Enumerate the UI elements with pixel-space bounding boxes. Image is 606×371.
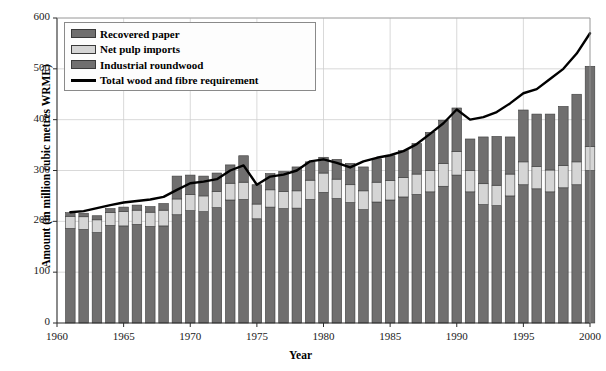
legend-swatch-industrial-roundwood [71, 60, 96, 69]
x-tick-label: 1960 [37, 330, 77, 342]
legend-item-recovered-paper: Recovered paper [71, 26, 309, 42]
x-tick-label: 1985 [370, 330, 410, 342]
x-tick-label: 1965 [104, 330, 144, 342]
x-tick-label: 1990 [437, 330, 477, 342]
legend-item-total-requirement: Total wood and fibre requirement [71, 73, 309, 89]
legend-swatch-net-pulp-imports [71, 45, 96, 54]
legend-item-industrial-roundwood: Industrial roundwood [71, 57, 309, 73]
legend-label-recovered-paper: Recovered paper [100, 28, 180, 40]
x-tick-label: 1975 [237, 330, 277, 342]
legend-label-net-pulp-imports: Net pulp imports [100, 43, 180, 55]
legend-swatch-recovered-paper [71, 29, 96, 38]
legend-item-net-pulp-imports: Net pulp imports [71, 42, 309, 58]
x-tick-label: 2000 [570, 330, 606, 342]
x-tick-label: 1995 [503, 330, 543, 342]
legend-label-industrial-roundwood: Industrial roundwood [100, 59, 203, 71]
legend-label-total-requirement: Total wood and fibre requirement [100, 74, 259, 86]
x-tick-label: 1980 [304, 330, 344, 342]
legend-line-total-requirement [71, 79, 96, 82]
chart-legend: Recovered paper Net pulp imports Industr… [64, 22, 316, 91]
x-tick-label: 1970 [170, 330, 210, 342]
